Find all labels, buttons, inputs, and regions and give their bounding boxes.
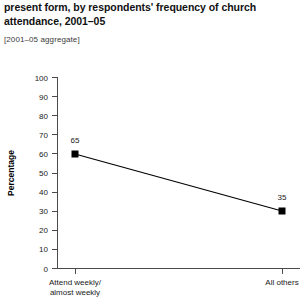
chart-figure: present form, by respondents' frequency … [0, 0, 308, 307]
y-axis-title: Percentage [6, 150, 16, 196]
y-tick-label-100: 100 [35, 74, 49, 83]
plot-area: 100 90 80 70 60 50 40 30 20 10 0 Percent… [0, 0, 308, 307]
y-tick-label-70: 70 [39, 131, 48, 140]
x-category-label-line2: almost weekly [50, 288, 100, 297]
y-axis-ticks [52, 78, 58, 269]
y-tick-label-40: 40 [39, 188, 48, 197]
y-tick-label-90: 90 [39, 93, 48, 102]
series-line [75, 154, 282, 211]
x-category-label-line1: Attend weekly/ [49, 278, 102, 287]
data-point-marker [72, 151, 79, 158]
x-axis-ticks [76, 269, 283, 275]
data-point-marker [279, 208, 286, 215]
y-tick-label-80: 80 [39, 112, 48, 121]
y-tick-label-10: 10 [39, 245, 48, 254]
x-category-label-all-others: All others [265, 278, 298, 287]
y-tick-label-0: 0 [44, 265, 49, 274]
data-value-label: 35 [278, 193, 287, 202]
y-tick-label-60: 60 [39, 150, 48, 159]
data-value-label: 65 [71, 136, 80, 145]
y-tick-label-20: 20 [39, 226, 48, 235]
y-tick-label-50: 50 [39, 169, 48, 178]
y-tick-label-30: 30 [39, 207, 48, 216]
